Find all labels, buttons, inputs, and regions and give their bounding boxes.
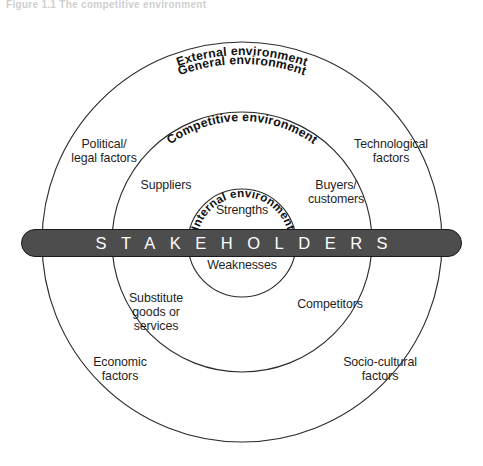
label-strengths: Strengths: [202, 203, 282, 217]
label-socio-cultural-factors: Socio-cultural factors: [322, 355, 438, 383]
label-competitors: Competitors: [282, 297, 378, 311]
label-technological-factors: Technological factors: [336, 137, 446, 165]
label-substitute-goods-or-services: Substitute goods or services: [111, 291, 201, 334]
stakeholders-bar-fill: STAKEHOLDERS: [21, 229, 462, 257]
label-economic-factors: Economic factors: [68, 355, 172, 383]
ring-label-competitive-environment: Competitive environment: [164, 110, 320, 147]
label-weaknesses: Weaknesses: [196, 258, 288, 272]
label-political-legal-factors: Political/ legal factors: [52, 137, 156, 165]
label-suppliers: Suppliers: [128, 178, 204, 192]
diagram-canvas: Figure 1.1 The competitive environment E…: [0, 0, 483, 466]
stakeholders-bar-label: STAKEHOLDERS: [81, 234, 402, 253]
stakeholders-bar: STAKEHOLDERS: [21, 229, 462, 257]
label-buyers-customers: Buyers/ customers: [294, 178, 378, 206]
